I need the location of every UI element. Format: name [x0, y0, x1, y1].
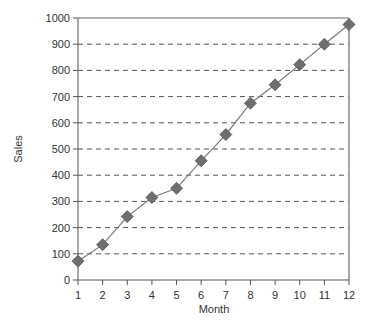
x-tick-label: 4: [149, 289, 155, 301]
y-axis-title: Sales: [12, 135, 24, 163]
x-tick-label: 1: [75, 289, 81, 301]
x-tick-label: 10: [294, 289, 306, 301]
y-tick-label: 0: [64, 274, 70, 286]
x-tick-label: 3: [124, 289, 130, 301]
x-tick-label: 5: [173, 289, 179, 301]
y-tick-label: 1000: [46, 12, 70, 24]
sales-line-chart: 01002003004005006007008009001000 1234567…: [0, 0, 365, 328]
x-tick-label: 2: [100, 289, 106, 301]
data-series: [72, 19, 355, 268]
y-tick-label: 600: [52, 117, 70, 129]
x-tick-label: 6: [198, 289, 204, 301]
gridlines: [78, 44, 349, 254]
x-tick-label: 8: [247, 289, 253, 301]
x-tick-label: 12: [343, 289, 355, 301]
x-tick-label: 9: [272, 289, 278, 301]
series-line: [78, 25, 349, 262]
diamond-marker: [244, 97, 256, 109]
y-tick-label: 900: [52, 38, 70, 50]
y-tick-label: 400: [52, 169, 70, 181]
diamond-marker: [343, 19, 355, 31]
x-axis-ticks: 123456789101112: [75, 280, 355, 301]
y-tick-label: 800: [52, 64, 70, 76]
y-tick-label: 500: [52, 143, 70, 155]
x-tick-label: 7: [223, 289, 229, 301]
y-tick-label: 100: [52, 248, 70, 260]
diamond-marker: [146, 191, 158, 203]
x-tick-label: 11: [319, 289, 330, 301]
y-tick-label: 200: [52, 222, 70, 234]
y-tick-label: 700: [52, 91, 70, 103]
y-tick-label: 300: [52, 195, 70, 207]
x-axis-title: Month: [199, 303, 230, 315]
y-axis-ticks: 01002003004005006007008009001000: [46, 12, 78, 286]
diamond-marker: [72, 255, 84, 267]
